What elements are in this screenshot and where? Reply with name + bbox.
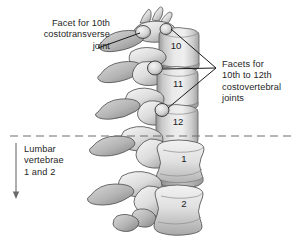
vertebra-number-l2: 2	[176, 199, 192, 209]
vertebra-number-t10: 10	[168, 41, 184, 51]
anatomy-figure: Facet for 10th costotransverse joint Fac…	[0, 0, 301, 245]
vertebra-number-l1: 1	[176, 154, 192, 164]
vertebra-number-t12: 12	[170, 117, 186, 127]
lumbar-down-arrow	[13, 143, 19, 199]
vertebra-number-t11: 11	[170, 79, 186, 89]
label-costovertebral-joints: Facets for 10th to 12th costovertebral j…	[222, 59, 300, 105]
label-lumbar-vertebrae: Lumbar vertebrae 1 and 2	[24, 144, 96, 178]
label-costotransverse-joint: Facet for 10th costotransverse joint	[6, 18, 110, 52]
